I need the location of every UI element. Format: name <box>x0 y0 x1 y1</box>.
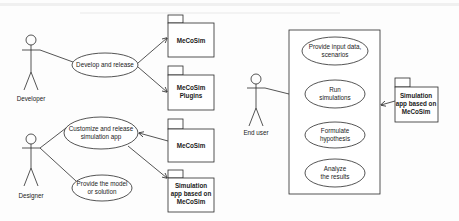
svg-text:Develop and release: Develop and release <box>76 61 134 69</box>
svg-text:Provide input data,: Provide input data, <box>309 43 362 51</box>
usecase-provide-model: Provide the model or solution <box>72 175 132 201</box>
svg-text:simulation app: simulation app <box>81 133 122 141</box>
package-simulation-app-2: Simulation app based on MeCoSim <box>395 78 438 122</box>
usecase-run-simulations: Run simulations <box>305 80 365 108</box>
association-designer-provide <box>40 148 76 181</box>
svg-text:Simulation: Simulation <box>175 182 207 189</box>
use-case-diagram: Developer Develop and release MeCoSim Me… <box>0 0 459 221</box>
svg-text:or solution: or solution <box>87 188 117 195</box>
svg-text:Plugins: Plugins <box>180 92 203 100</box>
svg-text:hypothesis: hypothesis <box>320 135 350 143</box>
usecase-provide-input: Provide input data, scenarios <box>302 37 368 65</box>
package-mecosim-2: MeCoSim <box>168 119 214 162</box>
svg-text:Provide the model: Provide the model <box>77 180 128 187</box>
usecase-formulate-hypothesis: Formulate hypothesis <box>305 122 365 148</box>
svg-text:simulations: simulations <box>319 94 351 101</box>
svg-text:app based on: app based on <box>171 190 212 198</box>
svg-text:MeCoSim: MeCoSim <box>177 142 206 149</box>
package-simulation-app-1: Simulation app based on MeCoSim <box>168 170 214 212</box>
arrow-customize-to-simapp <box>128 146 167 178</box>
arrow-mecosim-to-customize <box>139 133 168 141</box>
association-developer <box>40 50 73 62</box>
association-designer-customize <box>40 128 66 148</box>
actor-head-icon <box>26 134 36 144</box>
svg-text:MeCoSim: MeCoSim <box>177 198 206 205</box>
actor-head-icon <box>26 35 36 45</box>
association-end-user <box>265 88 289 94</box>
svg-text:Customize and release: Customize and release <box>69 125 134 132</box>
actor-label-end-user: End user <box>243 129 268 136</box>
svg-text:Analyze: Analyze <box>324 165 347 173</box>
svg-text:app based on: app based on <box>396 100 437 108</box>
package-mecosim-1: MeCoSim <box>168 15 214 57</box>
svg-text:MeCoSim: MeCoSim <box>402 108 431 115</box>
actor-head-icon <box>251 74 261 84</box>
usecase-customize-release: Customize and release simulation app <box>64 117 138 149</box>
svg-text:Formulate: Formulate <box>321 127 350 134</box>
svg-text:MeCoSim: MeCoSim <box>177 84 206 91</box>
svg-text:Simulation: Simulation <box>400 92 432 99</box>
svg-text:the results: the results <box>320 173 349 180</box>
actor-designer: Designer <box>18 134 43 200</box>
usecase-develop-release: Develop and release <box>72 53 138 77</box>
actor-end-user: End user <box>243 74 268 136</box>
arrow-simapp-to-system <box>381 101 395 105</box>
usecase-analyze-results: Analyze the results <box>305 159 365 187</box>
arrow-to-mecosim <box>138 38 167 63</box>
actor-label-developer: Developer <box>17 95 46 103</box>
actor-developer: Developer <box>17 35 46 103</box>
background-bleed-text <box>0 3 459 14</box>
svg-text:Run: Run <box>329 86 341 93</box>
package-mecosim-plugins: MeCoSim Plugins <box>168 66 214 110</box>
actor-label-designer: Designer <box>18 192 43 200</box>
arrow-to-plugins <box>138 67 167 92</box>
svg-text:scenarios: scenarios <box>322 51 349 58</box>
svg-text:MeCoSim: MeCoSim <box>177 37 206 44</box>
